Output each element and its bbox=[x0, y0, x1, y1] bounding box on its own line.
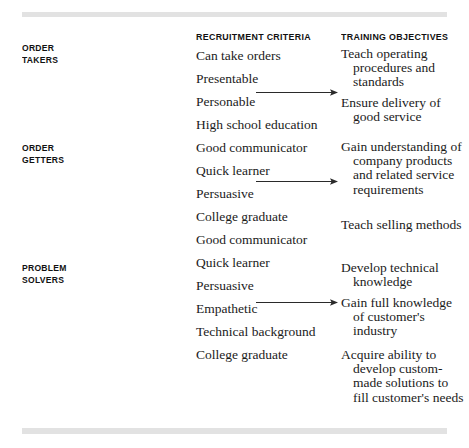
criterion-item: Presentable bbox=[196, 71, 258, 86]
criterion-item: College graduate bbox=[196, 209, 288, 224]
criterion-item: Quick learner bbox=[196, 163, 270, 178]
column-header-recruitment-criteria: RECRUITMENT CRITERIA bbox=[196, 31, 311, 42]
criterion-item: Technical background bbox=[196, 324, 315, 339]
objective-item: Gain full knowledge of customer's indust… bbox=[341, 296, 465, 339]
top-divider bbox=[22, 12, 447, 17]
criterion-item: Quick learner bbox=[196, 255, 270, 270]
criterion-item: Can take orders bbox=[196, 48, 281, 63]
group-label-line-2: TAKERS bbox=[22, 54, 58, 66]
criterion-item: Personable bbox=[196, 94, 255, 109]
figure-canvas: RECRUITMENT CRITERIA TRAINING OBJECTIVES… bbox=[0, 0, 469, 448]
criterion-item: Empathetic bbox=[196, 301, 257, 316]
objective-item: Develop technical knowledge bbox=[341, 261, 465, 289]
group-label-line-1: ORDER bbox=[22, 42, 58, 54]
group-label-line-2: SOLVERS bbox=[22, 274, 67, 286]
group-label-line-1: ORDER bbox=[22, 142, 64, 154]
arrow-right-icon bbox=[256, 298, 338, 307]
criterion-item: Persuasive bbox=[196, 278, 254, 293]
objective-item: Teach selling methods bbox=[341, 218, 465, 232]
column-header-training-objectives: TRAINING OBJECTIVES bbox=[341, 31, 448, 42]
group-label-order-getters: ORDER GETTERS bbox=[22, 142, 64, 165]
objective-item: Ensure delivery of good service bbox=[341, 96, 465, 124]
criterion-item: Good communicator bbox=[196, 232, 307, 247]
criterion-item: Good communicator bbox=[196, 140, 307, 155]
objective-item: Teach operating procedures and standards bbox=[341, 47, 465, 90]
objective-item: Gain understanding of company products a… bbox=[341, 140, 465, 197]
group-label-line-2: GETTERS bbox=[22, 154, 64, 166]
bottom-divider bbox=[22, 428, 447, 434]
group-label-order-takers: ORDER TAKERS bbox=[22, 42, 58, 65]
objective-item: Acquire ability to develop custom-made s… bbox=[341, 348, 465, 405]
criterion-item: High school education bbox=[196, 117, 317, 132]
criterion-item: College graduate bbox=[196, 347, 288, 362]
arrow-right-icon bbox=[256, 88, 338, 97]
criterion-item: Persuasive bbox=[196, 186, 254, 201]
group-label-problem-solvers: PROBLEM SOLVERS bbox=[22, 262, 67, 285]
group-label-line-1: PROBLEM bbox=[22, 262, 67, 274]
arrow-right-icon bbox=[256, 177, 338, 186]
